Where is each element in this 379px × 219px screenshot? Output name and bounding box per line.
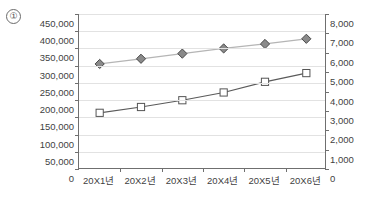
left-axis-tickmark (75, 66, 79, 67)
left-axis-tick-label: 100,000 (40, 140, 74, 150)
left-axis-tickmark (75, 117, 79, 118)
right-axis-tick-label: 0 (330, 174, 335, 184)
x-axis-tickmark (203, 168, 204, 172)
x-axis-labels: 20X1년20X2년20X3년20X4년20X5년20X6년 (78, 176, 326, 196)
left-axis-tick-label: 300,000 (40, 71, 74, 81)
right-axis-tickmark (325, 169, 329, 170)
x-axis-tickmark (286, 168, 287, 172)
data-point-square (220, 89, 227, 96)
data-point-diamond (178, 49, 187, 58)
data-point-square (96, 109, 103, 116)
right-axis-tick-label: 1,000 (330, 155, 354, 165)
right-axis-tickmark (325, 53, 329, 54)
gridline (79, 31, 325, 32)
left-axis-tickmark (75, 31, 79, 32)
gridline (79, 14, 325, 15)
gridline (79, 83, 325, 84)
left-axis-tickmark (75, 83, 79, 84)
x-axis-tick-label: 20X3년 (166, 176, 197, 186)
data-point-diamond (136, 54, 145, 63)
x-axis-tickmark (120, 168, 121, 172)
data-point-square (137, 103, 144, 110)
gridline (79, 152, 325, 153)
x-axis-tick-label: 20X6년 (290, 176, 321, 186)
right-axis-tick-label: 8,000 (330, 19, 354, 29)
right-axis-tick-label: 7,000 (330, 38, 354, 48)
right-axis-tickmark (325, 14, 329, 15)
x-axis-tick-label: 20X2년 (124, 176, 155, 186)
data-point-diamond (95, 59, 104, 68)
right-axis-tick-label: 5,000 (330, 77, 354, 87)
left-axis-tickmark (75, 169, 79, 170)
left-axis-tickmark (75, 135, 79, 136)
gridline (79, 48, 325, 49)
right-axis-tickmark (325, 72, 329, 73)
left-axis-tick-label: 350,000 (40, 53, 74, 63)
series-lines (79, 14, 327, 169)
right-axis-labels: 01,0002,0003,0004,0005,0006,0007,0008,00… (330, 10, 376, 173)
left-axis-tick-label: 250,000 (40, 88, 74, 98)
gridline (79, 135, 325, 136)
chart-container: ① 050,000100,000150,000200,000250,000300… (0, 0, 379, 219)
left-axis-tickmark (75, 100, 79, 101)
series-line-square (100, 73, 307, 113)
left-axis-tickmark (75, 48, 79, 49)
right-axis-tickmark (325, 150, 329, 151)
left-axis-tick-label: 400,000 (40, 36, 74, 46)
right-axis-tick-label: 6,000 (330, 58, 354, 68)
right-axis-tick-label: 3,000 (330, 116, 354, 126)
x-axis-tickmark (162, 168, 163, 172)
left-axis-tick-label: 200,000 (40, 105, 74, 115)
gridline (79, 117, 325, 118)
left-axis-tick-label: 150,000 (40, 122, 74, 132)
plot-area (78, 14, 326, 169)
left-axis-tickmark (75, 152, 79, 153)
left-axis-labels: 050,000100,000150,000200,000250,000300,0… (22, 10, 74, 173)
right-axis-tickmark (325, 130, 329, 131)
x-axis-tick-label: 20X1년 (83, 176, 114, 186)
right-axis-tick-label: 4,000 (330, 97, 354, 107)
right-axis-tickmark (325, 111, 329, 112)
left-axis-tick-label: 0 (69, 174, 74, 184)
x-axis-tick-label: 20X5년 (248, 176, 279, 186)
right-axis-tick-label: 2,000 (330, 135, 354, 145)
data-point-square (261, 78, 268, 85)
left-axis-tick-label: 50,000 (45, 157, 74, 167)
data-point-diamond (260, 39, 269, 48)
x-axis-tickmark (244, 168, 245, 172)
right-axis-tickmark (325, 92, 329, 93)
left-axis-tickmark (75, 14, 79, 15)
gridline (79, 100, 325, 101)
data-point-diamond (302, 34, 311, 43)
series-line-diamond (100, 39, 307, 64)
right-axis-tickmark (325, 33, 329, 34)
left-axis-tick-label: 450,000 (40, 19, 74, 29)
gridline (79, 66, 325, 67)
data-point-square (303, 69, 310, 76)
item-number-marker: ① (6, 9, 21, 24)
x-axis-tick-label: 20X4년 (207, 176, 238, 186)
